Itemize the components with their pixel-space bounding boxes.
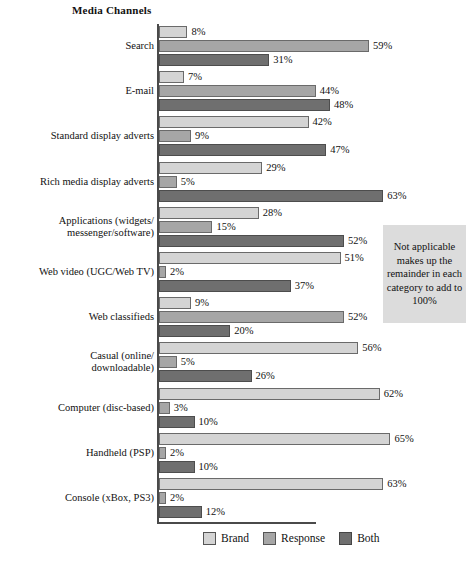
bar-value-label: 3%: [174, 401, 188, 414]
media-channels-bar-chart: Media Channels Not applicable makes up t…: [0, 0, 474, 561]
category-label: Search: [125, 40, 154, 52]
bar-both[interactable]: [159, 99, 330, 111]
bar-response[interactable]: [159, 266, 166, 278]
bar-value-label: 9%: [195, 296, 209, 309]
category-label: Rich media display adverts: [40, 176, 154, 188]
chart-title: Media Channels: [72, 4, 152, 16]
bar-brand[interactable]: [159, 342, 358, 354]
chart-legend: Brand Response Both: [203, 532, 380, 545]
bar-response[interactable]: [159, 176, 177, 188]
bar-response[interactable]: [159, 447, 166, 459]
category-label: Casual (online/ downloadable): [90, 350, 154, 374]
bar-value-label: 5%: [181, 175, 195, 188]
bar-both[interactable]: [159, 235, 344, 247]
bar-value-label: 63%: [387, 189, 406, 202]
bar-value-label: 7%: [188, 70, 202, 83]
bar-response[interactable]: [159, 356, 177, 368]
bar-brand[interactable]: [159, 116, 309, 128]
bar-value-label: 26%: [256, 369, 275, 382]
bar-brand[interactable]: [159, 252, 341, 264]
bar-brand[interactable]: [159, 388, 380, 400]
bar-value-label: 42%: [313, 115, 332, 128]
bar-value-label: 59%: [373, 39, 392, 52]
bar-value-label: 5%: [181, 355, 195, 368]
legend-swatch-brand-icon: [203, 532, 216, 545]
bar-value-label: 37%: [295, 279, 314, 292]
bar-response[interactable]: [159, 221, 212, 233]
bar-both[interactable]: [159, 506, 202, 518]
bar-both[interactable]: [159, 416, 195, 428]
bar-both[interactable]: [159, 325, 230, 337]
legend-item-brand[interactable]: Brand: [203, 532, 249, 545]
category-label: Standard display adverts: [51, 130, 154, 142]
legend-label-response: Response: [281, 532, 325, 545]
category-label: E-mail: [125, 85, 154, 97]
legend-label-both: Both: [357, 532, 379, 545]
bar-both[interactable]: [159, 54, 269, 66]
bar-both[interactable]: [159, 370, 252, 382]
bar-response[interactable]: [159, 40, 369, 52]
bar-value-label: 15%: [216, 220, 235, 233]
bar-value-label: 20%: [234, 324, 253, 337]
legend-item-both[interactable]: Both: [339, 532, 379, 545]
bar-both[interactable]: [159, 280, 291, 292]
bar-brand[interactable]: [159, 162, 262, 174]
bar-value-label: 52%: [348, 234, 367, 247]
category-label: Web video (UGC/Web TV): [39, 266, 154, 278]
bar-value-label: 31%: [273, 53, 292, 66]
bar-response[interactable]: [159, 402, 170, 414]
bar-value-label: 2%: [170, 265, 184, 278]
legend-item-response[interactable]: Response: [263, 532, 325, 545]
bar-response[interactable]: [159, 130, 191, 142]
bar-both[interactable]: [159, 461, 195, 473]
bar-value-label: 62%: [384, 387, 403, 400]
bar-value-label: 56%: [362, 341, 381, 354]
bar-value-label: 28%: [263, 206, 282, 219]
bar-both[interactable]: [159, 144, 326, 156]
note-box: Not applicable makes up the remainder in…: [383, 225, 466, 323]
bar-brand[interactable]: [159, 71, 184, 83]
bar-value-label: 44%: [320, 84, 339, 97]
bar-value-label: 51%: [345, 251, 364, 264]
bar-value-label: 52%: [348, 310, 367, 323]
bar-response[interactable]: [159, 492, 166, 504]
bar-brand[interactable]: [159, 433, 390, 445]
bar-value-label: 63%: [387, 477, 406, 490]
bar-value-label: 9%: [195, 129, 209, 142]
bar-value-label: 8%: [191, 25, 205, 38]
bar-value-label: 29%: [266, 161, 285, 174]
bar-value-label: 47%: [330, 143, 349, 156]
category-label: Console (xBox, PS3): [65, 492, 154, 504]
category-label: Web classifieds: [89, 311, 154, 323]
bar-value-label: 10%: [199, 415, 218, 428]
bar-brand[interactable]: [159, 478, 383, 490]
bar-value-label: 2%: [170, 491, 184, 504]
bar-value-label: 10%: [199, 460, 218, 473]
bar-value-label: 65%: [394, 432, 413, 445]
category-label: Applications (widgets/ messenger/softwar…: [59, 215, 154, 239]
category-label: Handheld (PSP): [86, 447, 154, 459]
bar-value-label: 12%: [206, 505, 225, 518]
category-label: Computer (disc-based): [58, 402, 154, 414]
legend-label-brand: Brand: [221, 532, 249, 545]
bar-response[interactable]: [159, 85, 316, 97]
bar-brand[interactable]: [159, 297, 191, 309]
bar-value-label: 48%: [334, 98, 353, 111]
legend-swatch-response-icon: [263, 532, 276, 545]
bar-brand[interactable]: [159, 207, 259, 219]
legend-swatch-both-icon: [339, 532, 352, 545]
bar-both[interactable]: [159, 190, 383, 202]
bar-response[interactable]: [159, 311, 344, 323]
bar-brand[interactable]: [159, 26, 187, 38]
bar-value-label: 2%: [170, 446, 184, 459]
